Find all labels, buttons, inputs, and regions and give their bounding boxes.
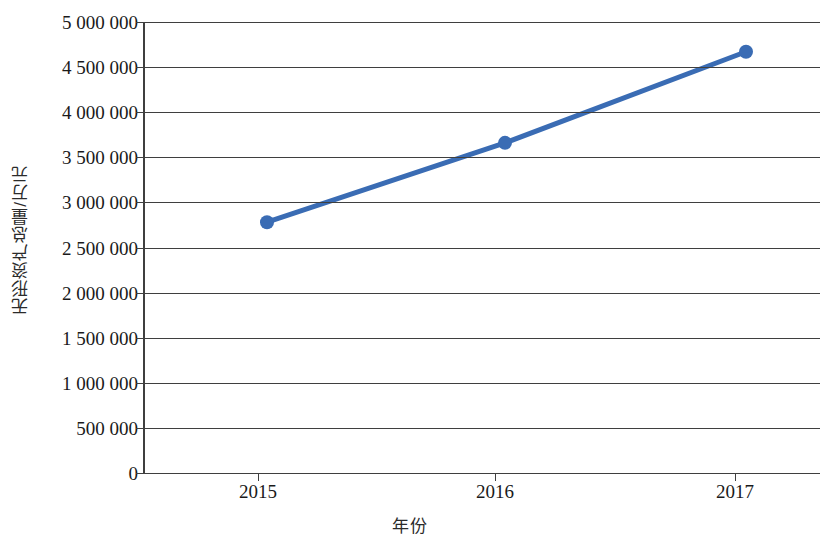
y-axis-tick-label: 1 500 000 bbox=[62, 328, 138, 347]
data-point-marker bbox=[260, 215, 274, 229]
y-axis-title: 无形资产总量/万元 bbox=[2, 0, 38, 480]
y-axis-tick bbox=[136, 383, 143, 384]
data-point-marker bbox=[739, 45, 753, 59]
line-chart: 无形资产总量/万元 0500 0001 000 0001 500 0002 00… bbox=[0, 0, 820, 545]
gridline bbox=[143, 248, 820, 249]
y-axis-tick-label: 5 000 000 bbox=[62, 13, 138, 32]
y-axis-tick-label: 2 500 000 bbox=[62, 238, 138, 257]
gridline bbox=[143, 473, 820, 474]
gridline bbox=[143, 157, 820, 158]
gridline bbox=[143, 202, 820, 203]
y-axis-tick-label: 3 500 000 bbox=[62, 148, 138, 167]
y-axis-tick bbox=[136, 202, 143, 203]
y-axis-tick-label: 4 500 000 bbox=[62, 58, 138, 77]
y-axis-tick bbox=[136, 157, 143, 158]
x-axis-tick-labels: 201520162017 bbox=[143, 482, 820, 512]
y-axis-tick-label: 3 000 000 bbox=[62, 193, 138, 212]
y-axis-tick bbox=[136, 112, 143, 113]
gridline bbox=[143, 338, 820, 339]
y-axis-tick bbox=[136, 338, 143, 339]
y-axis-tick-label: 2 000 000 bbox=[62, 283, 138, 302]
y-axis-tick bbox=[136, 293, 143, 294]
y-axis-tick-label: 4 000 000 bbox=[62, 103, 138, 122]
y-axis-tick bbox=[136, 22, 143, 23]
y-axis-tick bbox=[136, 473, 143, 474]
gridline bbox=[143, 293, 820, 294]
y-axis-tick bbox=[136, 67, 143, 68]
y-axis-tick-labels: 0500 0001 000 0001 500 0002 000 0002 500… bbox=[38, 0, 138, 545]
x-axis-title: 年份 bbox=[0, 512, 820, 537]
x-axis-tick-label: 2015 bbox=[239, 482, 277, 501]
x-axis-tick-label: 2017 bbox=[716, 482, 754, 501]
y-axis-title-text: 无形资产总量/万元 bbox=[8, 165, 33, 315]
y-axis-tick-label: 1 000 000 bbox=[62, 373, 138, 392]
y-axis-tick bbox=[136, 248, 143, 249]
gridline bbox=[143, 22, 820, 23]
gridline bbox=[143, 383, 820, 384]
y-axis-tick bbox=[136, 428, 143, 429]
y-axis-tick-label: 500 000 bbox=[76, 418, 138, 437]
data-point-marker bbox=[498, 136, 512, 150]
x-axis-tick bbox=[735, 473, 736, 481]
gridline bbox=[143, 112, 820, 113]
x-axis-tick bbox=[258, 473, 259, 481]
x-axis-tick-label: 2016 bbox=[476, 482, 514, 501]
x-axis-tick bbox=[495, 473, 496, 481]
gridline bbox=[143, 67, 820, 68]
gridline bbox=[143, 428, 820, 429]
plot-area bbox=[143, 22, 820, 473]
